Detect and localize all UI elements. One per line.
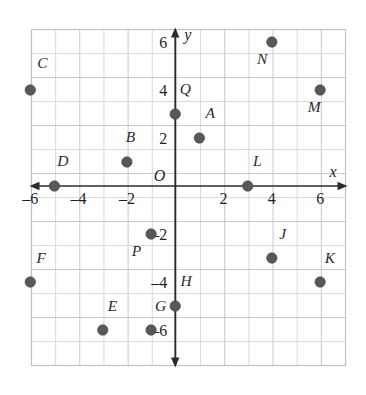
point-label-G: G	[155, 297, 166, 314]
point-labels: ABCDEFGHJKLMNPQ	[35, 50, 335, 314]
point-label-B: B	[126, 128, 136, 145]
x-tick-label: 2	[220, 190, 228, 207]
x-tick-label: –6	[21, 190, 38, 207]
data-point-Q	[170, 109, 180, 119]
data-point-N	[267, 37, 277, 47]
point-label-E: E	[107, 297, 118, 314]
data-point-F	[25, 277, 35, 287]
point-label-Q: Q	[180, 80, 191, 97]
point-label-F: F	[35, 249, 46, 266]
point-label-C: C	[37, 54, 48, 71]
point-label-L: L	[252, 152, 262, 169]
point-label-M: M	[307, 98, 322, 115]
x-axis-name: x	[329, 163, 337, 180]
data-point-C	[25, 85, 35, 95]
data-point-A	[194, 133, 204, 143]
point-label-P: P	[131, 242, 142, 259]
data-point-P	[146, 229, 156, 239]
y-tick-label: –4	[150, 274, 167, 291]
coordinate-plane-graph: –6–4–2246642–2–4–6O ABCDEFGHJKLMNPQ yx	[0, 0, 366, 395]
y-axis-name: y	[182, 26, 192, 44]
point-label-A: A	[205, 104, 216, 121]
point-label-K: K	[324, 249, 336, 266]
data-point-H	[170, 301, 180, 311]
data-point-K	[315, 277, 325, 287]
data-point-D	[49, 181, 59, 191]
origin-label: O	[154, 167, 166, 184]
y-tick-label: 4	[159, 82, 167, 99]
data-point-J	[267, 253, 277, 263]
point-label-D: D	[56, 152, 68, 169]
data-point-B	[122, 157, 132, 167]
data-point-E	[98, 325, 108, 335]
x-tick-label: 4	[268, 190, 276, 207]
y-tick-label: 2	[159, 130, 167, 147]
point-label-H: H	[179, 272, 192, 289]
point-label-N: N	[256, 50, 269, 67]
data-point-G	[146, 325, 156, 335]
x-tick-label: –4	[70, 190, 87, 207]
x-tick-label: –2	[118, 190, 135, 207]
scatter-plot-svg: –6–4–2246642–2–4–6O ABCDEFGHJKLMNPQ yx	[0, 0, 366, 395]
y-tick-label: 6	[159, 34, 167, 51]
data-point-L	[242, 181, 252, 191]
x-tick-label: 6	[316, 190, 324, 207]
data-point-M	[315, 85, 325, 95]
point-label-J: J	[279, 225, 287, 242]
